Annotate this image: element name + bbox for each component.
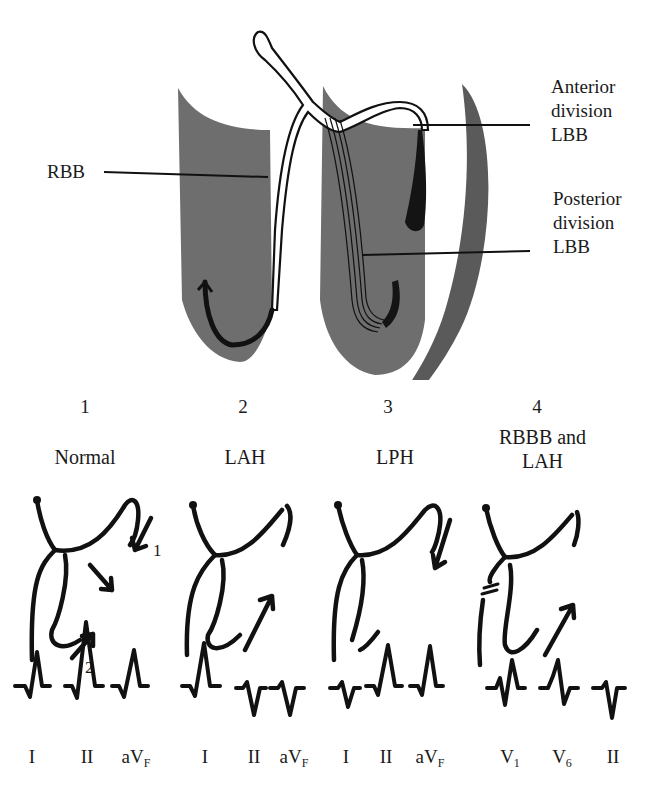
panel4-lead-label: V6 — [537, 746, 587, 771]
lead-name: II — [248, 746, 261, 767]
panel-1-schematic — [32, 496, 151, 660]
ecg-panel2-lead-aVF — [270, 682, 304, 715]
panel-4-schematic — [479, 504, 578, 665]
panels-schematics: 1 2 — [0, 0, 665, 787]
ecg-panel1-lead-II — [65, 622, 103, 698]
panel-2-schematic — [187, 501, 291, 655]
lead-name: V — [500, 746, 514, 767]
lead-name: aV — [122, 746, 144, 767]
ecg-panel4-lead-V1 — [487, 660, 525, 705]
lead-subscript: F — [144, 756, 151, 770]
lead-subscript: F — [438, 756, 445, 770]
arrow-label-1: 1 — [153, 541, 162, 560]
conduction-diagram: RBB Anterior division LBB Posterior divi… — [0, 0, 665, 787]
panel1-lead-label: I — [7, 746, 57, 771]
ecg-panel3-lead-II — [366, 645, 402, 695]
lead-name: I — [29, 746, 35, 767]
lead-subscript: 1 — [514, 756, 520, 770]
panel3-lead-label: II — [361, 746, 411, 771]
lead-name: aV — [416, 746, 438, 767]
panel-3-schematic — [334, 501, 450, 660]
lead-name: I — [343, 746, 349, 767]
panel2-lead-label: I — [180, 746, 230, 771]
panel1-lead-label: aVF — [111, 746, 161, 771]
ecg-panel3-lead-I — [330, 682, 360, 707]
panel3-lead-label: aVF — [405, 746, 455, 771]
panel1-lead-label: II — [62, 746, 112, 771]
lead-name: aV — [280, 746, 302, 767]
ecg-panel3-lead-aVF — [410, 646, 443, 695]
panel4-lead-label: II — [588, 746, 638, 771]
lead-name: II — [81, 746, 94, 767]
lead-name: II — [607, 746, 620, 767]
panel4-lead-label: V1 — [485, 746, 535, 771]
lead-subscript: 6 — [566, 756, 572, 770]
lead-name: V — [552, 746, 566, 767]
lead-subscript: F — [302, 756, 309, 770]
ecg-panel4-lead-II — [593, 682, 625, 718]
ecg-panel4-lead-V6 — [540, 660, 578, 704]
panel2-lead-label: aVF — [269, 746, 319, 771]
ecg-panel2-lead-II — [236, 682, 266, 715]
lead-name: II — [380, 746, 393, 767]
ecg-panel1-lead-aVF — [112, 650, 148, 697]
lead-name: I — [202, 746, 208, 767]
